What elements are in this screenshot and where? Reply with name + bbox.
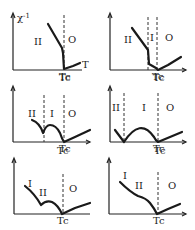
susceptibility-curve bbox=[32, 120, 90, 142]
region-label-1: II bbox=[112, 102, 120, 113]
region-label-3: O bbox=[165, 32, 173, 43]
tc-label-top: Tc bbox=[57, 145, 69, 156]
tc-label-top: Tc bbox=[59, 72, 71, 83]
region-label-2: I bbox=[50, 108, 54, 119]
panel-5: Tc I II O Tc bbox=[0, 150, 97, 230]
region-label-3: O bbox=[68, 108, 76, 119]
panel-6: Tc I II O Tc bbox=[98, 150, 195, 230]
region-label-2: I bbox=[142, 102, 146, 113]
panel-3: Tc II I O Tc bbox=[0, 75, 97, 153]
panel-4: Tc II I O Tc bbox=[98, 75, 195, 153]
susceptibility-curve bbox=[25, 186, 90, 214]
x-axis-label: T bbox=[82, 59, 89, 70]
tc-label-top: Tc bbox=[153, 72, 165, 83]
tc-label: Tc bbox=[57, 215, 69, 226]
region-label-3: O bbox=[168, 180, 176, 191]
tc-label: Tc bbox=[153, 215, 165, 226]
region-label-1: I bbox=[28, 178, 32, 189]
region-label-1: II bbox=[28, 108, 36, 119]
region-label-1: I bbox=[123, 170, 127, 181]
y-axis-label: χ-1 bbox=[17, 12, 30, 23]
panel-2: II I O Tc bbox=[98, 0, 195, 78]
susceptibility-curve bbox=[115, 128, 182, 142]
region-label-3: O bbox=[69, 183, 77, 194]
region-label-3: O bbox=[166, 102, 174, 113]
region-label-1: II bbox=[34, 36, 42, 47]
region-label-2: I bbox=[150, 32, 154, 43]
region-label-2: II bbox=[39, 187, 47, 198]
region-label-2: O bbox=[68, 34, 76, 45]
panel-1: χ-1 T II O Tc bbox=[0, 0, 97, 78]
region-label-2: II bbox=[135, 180, 143, 191]
tc-label-top: Tc bbox=[154, 145, 166, 156]
region-label-1: II bbox=[124, 34, 132, 45]
